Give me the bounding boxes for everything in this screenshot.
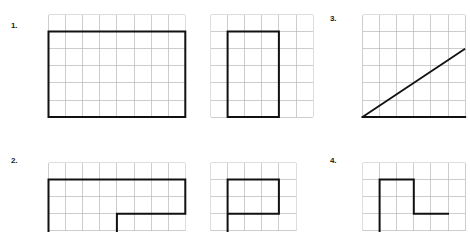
problem-2-figure-b bbox=[210, 162, 318, 236]
grid-svg-p2b bbox=[210, 162, 318, 236]
problem-1-figure-a bbox=[48, 14, 189, 125]
grid-lines-p1b bbox=[211, 15, 314, 118]
problem-2-number: 2. bbox=[11, 157, 17, 165]
problem-4-figure-a bbox=[362, 162, 470, 236]
shape-outline-p2b bbox=[228, 180, 279, 231]
grid-svg-p1a bbox=[48, 14, 189, 125]
grid-svg-p2a bbox=[48, 162, 189, 236]
problem-2: 2. bbox=[0, 145, 205, 231]
problem-4: 4. bbox=[325, 145, 429, 231]
grid-svg-p4a bbox=[362, 162, 470, 236]
problem-1-figure-b bbox=[210, 14, 318, 125]
grid-svg-p1b bbox=[210, 14, 318, 125]
shape-outline-p1b bbox=[228, 32, 279, 118]
grid-lines-p3a bbox=[363, 15, 466, 118]
problem-3: 3. bbox=[325, 0, 429, 140]
problem-3-number: 3. bbox=[330, 15, 336, 23]
problem-2-figure-a bbox=[48, 162, 189, 236]
grid-svg-p3a bbox=[362, 14, 470, 125]
grid-lines-p1a bbox=[49, 15, 186, 118]
problem-1: 1. bbox=[0, 0, 205, 140]
problem-3-figure-a bbox=[362, 14, 470, 125]
grid-lines-p2b bbox=[211, 163, 297, 231]
problem-1-number: 1. bbox=[11, 22, 17, 30]
problem-4-number: 4. bbox=[330, 157, 336, 165]
